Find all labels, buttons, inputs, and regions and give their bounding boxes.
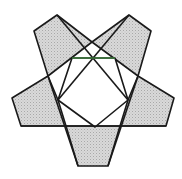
inner-pentagon [58,58,128,127]
arm-bottom [66,126,120,166]
pentagram-diagram [0,0,182,179]
arm-left [12,76,66,126]
arm-right [120,76,174,126]
